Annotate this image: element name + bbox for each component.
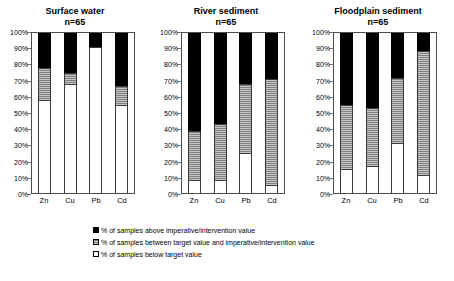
bar-segment-below — [188, 180, 201, 193]
x-axis-tick-label: Zn — [38, 195, 51, 207]
x-axis-tick-label: Cu — [64, 195, 77, 207]
y-axis-tick-label: 100% — [10, 29, 28, 36]
chart-panel: Surface watern=65100%90%80%70%60%50%40%3… — [0, 0, 150, 222]
stacked-bar[interactable] — [115, 33, 128, 193]
x-axis-tick-label: Pb — [90, 195, 103, 207]
y-axis-tick-label: 90% — [316, 45, 330, 52]
stacked-bar[interactable] — [89, 33, 102, 193]
bar-segment-below — [239, 153, 252, 193]
y-axis-tick-label: 40% — [14, 126, 28, 133]
chart-panels: Surface watern=65100%90%80%70%60%50%40%3… — [0, 0, 454, 222]
bar-segment-above — [391, 33, 404, 78]
bar-segment-below — [38, 100, 51, 193]
y-axis-tick-label: 30% — [316, 142, 330, 149]
y-axis-tick-label: 70% — [316, 77, 330, 84]
x-axis: ZnCuPbCd — [333, 195, 437, 209]
y-axis-tick-label: 10% — [14, 174, 28, 181]
legend-swatch-between-icon — [93, 239, 99, 245]
bar-segment-between — [417, 51, 430, 176]
y-axis-tick-label: 50% — [164, 110, 178, 117]
stacked-bar[interactable] — [188, 33, 201, 193]
y-axis-tick-label: 20% — [164, 158, 178, 165]
bar-segment-above — [239, 33, 252, 84]
y-axis-tick-label: 40% — [316, 126, 330, 133]
x-axis-tick-label: Zn — [340, 195, 353, 207]
y-axis-tick-label: 100% — [312, 29, 330, 36]
y-axis-tick-label: 0% — [18, 191, 28, 198]
y-axis-tick-label: 20% — [316, 158, 330, 165]
bar-segment-below — [89, 47, 102, 193]
y-axis-tick-label: 50% — [316, 110, 330, 117]
panel-sample-count: n=65 — [0, 17, 150, 28]
bar-segment-below — [115, 105, 128, 193]
y-axis: 100%90%80%70%60%50%40%30%20%10%0% — [150, 32, 180, 194]
legend-item[interactable]: % of samples above imperative/interventi… — [93, 224, 361, 236]
panel-title: Floodplain sediment — [302, 6, 454, 17]
legend-swatch-above-icon — [93, 227, 99, 233]
stacked-bar[interactable] — [417, 33, 430, 193]
bar-segment-above — [417, 33, 430, 51]
x-axis-tick-label: Cd — [266, 195, 279, 207]
stacked-bar[interactable] — [239, 33, 252, 193]
bar-segment-below — [340, 169, 353, 193]
stacked-bar[interactable] — [265, 33, 278, 193]
y-axis-tick-label: 60% — [14, 93, 28, 100]
bar-segment-between — [64, 73, 77, 84]
x-axis: ZnCuPbCd — [181, 195, 285, 209]
y-axis-tick-label: 40% — [164, 126, 178, 133]
stacked-bar[interactable] — [214, 33, 227, 193]
x-axis-tick-label: Cd — [418, 195, 431, 207]
panel-sample-count: n=65 — [150, 17, 302, 28]
panel-title: Surface water — [0, 6, 150, 17]
stacked-bar[interactable] — [391, 33, 404, 193]
plot-area — [333, 32, 437, 194]
x-axis-tick-label: Pb — [240, 195, 253, 207]
bar-segment-below — [391, 143, 404, 193]
panel-sample-count: n=65 — [302, 17, 454, 28]
bar-segment-above — [214, 33, 227, 124]
y-axis-tick-label: 60% — [164, 93, 178, 100]
legend-item-label: % of samples above imperative/interventi… — [101, 226, 255, 235]
stacked-bar[interactable] — [64, 33, 77, 193]
x-axis-tick-label: Zn — [188, 195, 201, 207]
stacked-bar[interactable] — [340, 33, 353, 193]
y-axis-tick-label: 90% — [14, 45, 28, 52]
bar-segment-between — [38, 68, 51, 100]
bar-segment-below — [366, 166, 379, 193]
y-axis-tick-label: 50% — [14, 110, 28, 117]
legend-item[interactable]: % of samples between target value and im… — [93, 236, 361, 248]
y-axis-tick-label: 90% — [164, 45, 178, 52]
y-axis-tick-label: 30% — [14, 142, 28, 149]
y-axis-tick-label: 30% — [164, 142, 178, 149]
bar-segment-above — [115, 33, 128, 86]
stacked-bar[interactable] — [38, 33, 51, 193]
legend-item-label: % of samples below target value — [101, 250, 202, 259]
bar-segment-above — [340, 33, 353, 105]
bar-segment-above — [265, 33, 278, 79]
bar-segment-between — [265, 79, 278, 185]
x-axis-tick-label: Pb — [392, 195, 405, 207]
stacked-bar[interactable] — [366, 33, 379, 193]
plot-area — [31, 32, 135, 194]
bar-segment-between — [239, 84, 252, 153]
legend-item[interactable]: % of samples below target value — [93, 248, 361, 260]
chart-panel: Floodplain sedimentn=65100%90%80%70%60%5… — [302, 0, 454, 222]
bar-segment-above — [64, 33, 77, 73]
y-axis-tick-label: 80% — [316, 61, 330, 68]
y-axis-tick-label: 70% — [14, 77, 28, 84]
legend-swatch-below-icon — [93, 251, 99, 257]
bar-segment-between — [115, 86, 128, 105]
chart-legend: % of samples above imperative/interventi… — [0, 224, 454, 274]
y-axis: 100%90%80%70%60%50%40%30%20%10%0% — [302, 32, 332, 194]
y-axis-tick-label: 20% — [14, 158, 28, 165]
legend-item-label: % of samples between target value and im… — [101, 238, 315, 247]
y-axis: 100%90%80%70%60%50%40%30%20%10%0% — [0, 32, 30, 194]
y-axis-tick-label: 70% — [164, 77, 178, 84]
y-axis-tick-label: 100% — [160, 29, 178, 36]
x-axis-tick-label: Cd — [116, 195, 129, 207]
bar-segment-between — [366, 108, 379, 166]
bar-segment-above — [188, 33, 201, 131]
plot-area — [181, 32, 285, 194]
bar-segment-below — [265, 185, 278, 193]
bar-segment-below — [417, 175, 430, 193]
